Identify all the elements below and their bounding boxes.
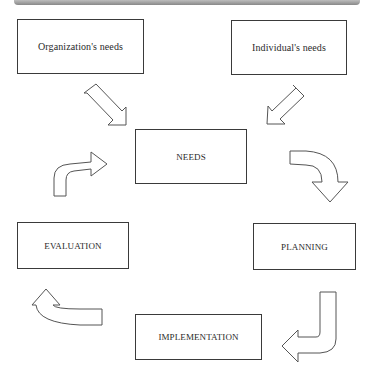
arrow-implementation-to-evaluation-icon — [32, 289, 102, 325]
